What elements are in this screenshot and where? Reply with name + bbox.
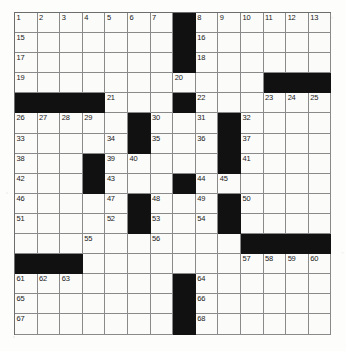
- crossword-cell[interactable]: [60, 214, 83, 234]
- crossword-cell[interactable]: [218, 33, 241, 53]
- crossword-cell[interactable]: [241, 274, 264, 294]
- crossword-cell[interactable]: 7: [151, 13, 174, 33]
- crossword-cell[interactable]: [173, 194, 196, 214]
- crossword-cell[interactable]: 29: [83, 113, 106, 133]
- crossword-cell[interactable]: [60, 234, 83, 254]
- crossword-cell[interactable]: [60, 314, 83, 334]
- crossword-cell[interactable]: 43: [105, 174, 128, 194]
- crossword-cell[interactable]: 16: [196, 33, 219, 53]
- crossword-cell[interactable]: [309, 194, 332, 214]
- crossword-cell[interactable]: [241, 314, 264, 334]
- crossword-cell[interactable]: [83, 194, 106, 214]
- crossword-cell[interactable]: 13: [309, 13, 332, 33]
- crossword-cell[interactable]: [128, 234, 151, 254]
- crossword-cell[interactable]: 19: [15, 73, 38, 93]
- crossword-cell[interactable]: [60, 134, 83, 154]
- crossword-cell[interactable]: 49: [196, 194, 219, 214]
- crossword-cell[interactable]: [286, 154, 309, 174]
- crossword-cell[interactable]: [60, 174, 83, 194]
- crossword-cell[interactable]: 23: [264, 93, 287, 113]
- crossword-cell[interactable]: [173, 134, 196, 154]
- crossword-cell[interactable]: [151, 174, 174, 194]
- crossword-cell[interactable]: [309, 134, 332, 154]
- crossword-cell[interactable]: [128, 93, 151, 113]
- crossword-cell[interactable]: 1: [15, 13, 38, 33]
- crossword-cell[interactable]: [309, 113, 332, 133]
- crossword-cell[interactable]: 39: [105, 154, 128, 174]
- crossword-cell[interactable]: [15, 234, 38, 254]
- crossword-cell[interactable]: [128, 314, 151, 334]
- crossword-cell[interactable]: [83, 314, 106, 334]
- crossword-cell[interactable]: 32: [241, 113, 264, 133]
- crossword-cell[interactable]: [128, 294, 151, 314]
- crossword-cell[interactable]: [241, 174, 264, 194]
- crossword-cell[interactable]: 22: [196, 93, 219, 113]
- crossword-cell[interactable]: [264, 113, 287, 133]
- crossword-cell[interactable]: [309, 214, 332, 234]
- crossword-cell[interactable]: 61: [15, 274, 38, 294]
- crossword-cell[interactable]: 45: [218, 174, 241, 194]
- crossword-cell[interactable]: [264, 53, 287, 73]
- crossword-cell[interactable]: [286, 314, 309, 334]
- crossword-cell[interactable]: [218, 53, 241, 73]
- crossword-cell[interactable]: 42: [15, 174, 38, 194]
- crossword-cell[interactable]: [173, 214, 196, 234]
- crossword-cell[interactable]: [309, 274, 332, 294]
- crossword-cell[interactable]: 5: [105, 13, 128, 33]
- crossword-cell[interactable]: [151, 93, 174, 113]
- crossword-cell[interactable]: 53: [151, 214, 174, 234]
- crossword-cell[interactable]: [286, 174, 309, 194]
- crossword-cell[interactable]: [38, 73, 61, 93]
- crossword-cell[interactable]: [105, 254, 128, 274]
- crossword-cell[interactable]: [151, 53, 174, 73]
- crossword-cell[interactable]: [218, 73, 241, 93]
- crossword-cell[interactable]: 17: [15, 53, 38, 73]
- crossword-cell[interactable]: [38, 214, 61, 234]
- crossword-cell[interactable]: [286, 53, 309, 73]
- crossword-cell[interactable]: [38, 194, 61, 214]
- crossword-cell[interactable]: [83, 274, 106, 294]
- crossword-cell[interactable]: [286, 294, 309, 314]
- crossword-cell[interactable]: 54: [196, 214, 219, 234]
- crossword-cell[interactable]: [151, 314, 174, 334]
- crossword-cell[interactable]: [83, 73, 106, 93]
- crossword-cell[interactable]: [128, 33, 151, 53]
- crossword-cell[interactable]: [309, 53, 332, 73]
- crossword-cell[interactable]: [173, 254, 196, 274]
- crossword-cell[interactable]: 50: [241, 194, 264, 214]
- crossword-cell[interactable]: [218, 294, 241, 314]
- crossword-cell[interactable]: [241, 33, 264, 53]
- crossword-cell[interactable]: 37: [241, 134, 264, 154]
- crossword-cell[interactable]: 6: [128, 13, 151, 33]
- crossword-cell[interactable]: [83, 254, 106, 274]
- crossword-cell[interactable]: 28: [60, 113, 83, 133]
- crossword-cell[interactable]: 40: [128, 154, 151, 174]
- crossword-cell[interactable]: [309, 314, 332, 334]
- crossword-cell[interactable]: [309, 174, 332, 194]
- crossword-cell[interactable]: [218, 254, 241, 274]
- crossword-cell[interactable]: 2: [38, 13, 61, 33]
- crossword-cell[interactable]: 27: [38, 113, 61, 133]
- crossword-cell[interactable]: 26: [15, 113, 38, 133]
- crossword-cell[interactable]: [196, 154, 219, 174]
- crossword-cell[interactable]: [151, 73, 174, 93]
- crossword-cell[interactable]: [128, 274, 151, 294]
- crossword-cell[interactable]: [196, 234, 219, 254]
- crossword-cell[interactable]: [38, 53, 61, 73]
- crossword-cell[interactable]: [83, 294, 106, 314]
- crossword-cell[interactable]: [38, 33, 61, 53]
- crossword-cell[interactable]: 8: [196, 13, 219, 33]
- crossword-cell[interactable]: [264, 274, 287, 294]
- crossword-cell[interactable]: [309, 33, 332, 53]
- crossword-cell[interactable]: [151, 294, 174, 314]
- crossword-cell[interactable]: [105, 113, 128, 133]
- crossword-cell[interactable]: [241, 53, 264, 73]
- crossword-cell[interactable]: [38, 234, 61, 254]
- crossword-cell[interactable]: [173, 154, 196, 174]
- crossword-cell[interactable]: 24: [286, 93, 309, 113]
- crossword-cell[interactable]: [83, 33, 106, 53]
- crossword-cell[interactable]: [218, 234, 241, 254]
- crossword-cell[interactable]: [60, 194, 83, 214]
- crossword-cell[interactable]: 12: [286, 13, 309, 33]
- crossword-cell[interactable]: [173, 113, 196, 133]
